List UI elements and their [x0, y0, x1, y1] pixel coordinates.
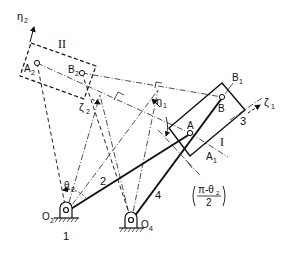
label-link-3: 3 — [240, 115, 246, 127]
angle-numerator: π-θ — [198, 184, 214, 195]
angle-label: π-θ 2 2 — [193, 184, 225, 208]
svg-text:2: 2 — [75, 70, 79, 77]
label-A1: A — [206, 151, 213, 162]
label-A: A — [187, 120, 194, 131]
label-ground-1: 1 — [63, 230, 69, 242]
linkage-diagram: π-θ 2 2 η 2 II A 2 B 2 ζ 2 η 1 B 1 B ζ 1… — [0, 0, 287, 253]
svg-text:1: 1 — [213, 157, 217, 164]
pins — [34, 60, 224, 135]
position-2-links — [37, 63, 131, 219]
label-O2: O — [42, 211, 50, 222]
svg-text:2: 2 — [50, 217, 54, 224]
half-angle-arrow — [166, 117, 168, 136]
svg-text:2: 2 — [71, 186, 75, 193]
label-B1: B — [232, 72, 239, 83]
svg-text:1: 1 — [163, 102, 167, 109]
label-link-2: 2 — [100, 175, 106, 187]
label-eta2: η — [17, 10, 23, 22]
label-B2: B — [68, 64, 75, 75]
angle-denominator: 2 — [206, 197, 212, 208]
link-2 — [66, 134, 190, 212]
ground-pivot-O2 — [54, 202, 79, 222]
label-B: B — [218, 103, 225, 114]
label-theta2: θ — [64, 180, 70, 191]
label-O4: O — [141, 219, 149, 230]
pin-A2 — [34, 60, 39, 65]
svg-text:2: 2 — [31, 69, 35, 76]
label-box-II: II — [58, 37, 66, 51]
right-angle-markers — [114, 82, 162, 100]
label-eta1: η — [156, 95, 162, 107]
svg-text:2: 2 — [86, 108, 90, 115]
svg-text:1: 1 — [271, 103, 275, 110]
pin-B2 — [79, 70, 84, 75]
label-zeta2: ζ — [79, 101, 84, 113]
label-box-I: I — [220, 135, 224, 149]
label-A2: A — [24, 63, 31, 74]
pin-A — [187, 130, 192, 135]
construction-lines — [37, 63, 262, 222]
svg-text:2: 2 — [216, 190, 220, 196]
svg-text:1: 1 — [239, 78, 243, 85]
pin-B — [219, 94, 224, 99]
svg-text:4: 4 — [149, 225, 153, 232]
labels: η 2 II A 2 B 2 ζ 2 η 1 B 1 B ζ 1 3 A I A… — [17, 10, 275, 242]
svg-text:2: 2 — [24, 17, 28, 24]
label-zeta1: ζ — [264, 96, 269, 108]
label-link-4: 4 — [155, 189, 161, 201]
